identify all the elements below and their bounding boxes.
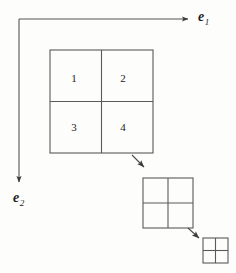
grid-level-1 bbox=[143, 178, 193, 228]
figure-canvas: e1 e2 1 2 3 4 bbox=[0, 0, 236, 273]
arrow-grid1-to-grid2 bbox=[188, 228, 199, 238]
e2-axis-label-subscript: 2 bbox=[20, 198, 25, 208]
recursive-subdivision-diagram bbox=[0, 0, 236, 273]
grid-cell-label-3: 3 bbox=[67, 122, 81, 133]
grid-cell-label-4: 4 bbox=[116, 122, 130, 133]
e1-axis-label: e1 bbox=[198, 10, 209, 27]
e1-axis-label-subscript: 1 bbox=[205, 17, 210, 27]
grid-cell-label-2: 2 bbox=[116, 73, 130, 84]
e1-axis-label-text: e bbox=[198, 9, 204, 24]
e2-axis-label: e2 bbox=[13, 191, 24, 208]
arrow-grid0-to-grid1 bbox=[132, 155, 144, 167]
e2-axis-label-text: e bbox=[13, 190, 19, 205]
grid-level-0 bbox=[50, 50, 153, 153]
grid-level-2 bbox=[203, 238, 228, 263]
grid-cell-label-1: 1 bbox=[67, 73, 81, 84]
axes-group bbox=[19, 19, 188, 182]
